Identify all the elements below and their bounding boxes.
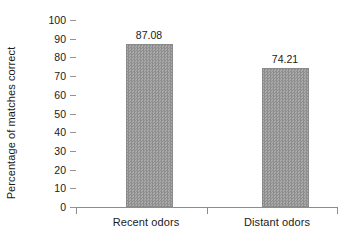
y-tick-80 (70, 57, 76, 58)
category-label-recent-odors: Recent odors (86, 216, 206, 228)
category-label-distant-odors: Distant odors (217, 216, 337, 228)
y-tick-20 (70, 170, 76, 171)
bar-value-label-distant-odors: 74.21 (255, 54, 315, 65)
y-tick-label-20: 20 (26, 165, 66, 176)
y-tick-40 (70, 132, 76, 133)
x-tick-center (207, 208, 208, 214)
y-tick-label-100: 100 (26, 15, 66, 26)
y-tick-label-30: 30 (26, 146, 66, 157)
y-axis-title: Percentage of matches correct (0, 0, 22, 246)
y-tick-90 (70, 39, 76, 40)
y-tick-70 (70, 76, 76, 77)
y-tick-label-80: 80 (26, 52, 66, 63)
y-tick-label-0: 0 (26, 202, 66, 213)
y-tick-label-70: 70 (26, 71, 66, 82)
y-tick-50 (70, 114, 76, 115)
y-tick-60 (70, 95, 76, 96)
y-tick-10 (70, 188, 76, 189)
bar-value-label-recent-odors: 87.08 (119, 30, 179, 41)
y-tick-label-60: 60 (26, 90, 66, 101)
y-tick-label-50: 50 (26, 109, 66, 120)
y-tick-100 (70, 20, 76, 21)
bar-chart: Percentage of matches correct 0102030405… (0, 0, 349, 246)
y-tick-label-10: 10 (26, 183, 66, 194)
x-tick-left (76, 208, 77, 214)
y-tick-label-40: 40 (26, 127, 66, 138)
y-tick-30 (70, 151, 76, 152)
bar-distant-odors (262, 68, 309, 207)
x-tick-right (337, 208, 338, 214)
bar-recent-odors (126, 44, 173, 207)
y-tick-label-90: 90 (26, 34, 66, 45)
